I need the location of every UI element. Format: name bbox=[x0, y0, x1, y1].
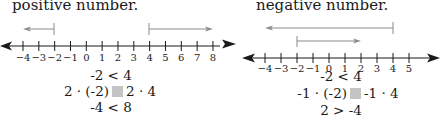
tick-label: −4 bbox=[16, 52, 31, 63]
tick-label: 8 bbox=[210, 52, 216, 63]
tick-label: −1 bbox=[63, 52, 78, 63]
right-step-1: -2 < 4 bbox=[306, 69, 376, 84]
tick-label: 5 bbox=[406, 63, 412, 74]
tick-label: 0 bbox=[83, 52, 89, 63]
comparison-placeholder-box bbox=[350, 88, 361, 99]
tick-label: −2 bbox=[47, 52, 62, 63]
right-step-2-lhs: -1 · (-2) bbox=[297, 85, 347, 101]
tick-label: 5 bbox=[162, 52, 168, 63]
tick-label: 7 bbox=[194, 52, 200, 63]
tick-label: −4 bbox=[258, 63, 273, 74]
tick-label: 3 bbox=[131, 52, 137, 63]
arrow-right-shift bbox=[149, 23, 213, 35]
left-step-2: 2 · (-2)2 · 4 bbox=[40, 84, 180, 99]
arrowhead-right-icon bbox=[222, 40, 236, 49]
tick-label: 6 bbox=[178, 52, 184, 63]
tick-label: 4 bbox=[146, 52, 152, 63]
comparison-placeholder-box bbox=[112, 86, 123, 97]
left-step-1: -2 < 4 bbox=[76, 68, 146, 83]
tick-label: −3 bbox=[274, 63, 289, 74]
right-step-3: 2 > -4 bbox=[306, 103, 376, 118]
arrow-short-right bbox=[297, 36, 361, 47]
tick-label: 4 bbox=[390, 63, 396, 74]
tick-label: 2 bbox=[115, 52, 121, 63]
right-step-2: -1 · (-2)-1 · 4 bbox=[278, 86, 418, 101]
arrow-long-left bbox=[265, 22, 393, 34]
right-number-line: −4−3−2−1012345 bbox=[242, 22, 440, 74]
left-step-2-rhs: 2 · 4 bbox=[126, 83, 156, 99]
left-step-2-lhs: 2 · (-2) bbox=[64, 83, 109, 99]
tick-label: 1 bbox=[99, 52, 105, 63]
arrow-left-shift bbox=[23, 23, 54, 35]
tick-label: −2 bbox=[290, 63, 305, 74]
left-step-3: -4 < 8 bbox=[76, 100, 146, 115]
left-number-line: −4−3−2−1012345678 bbox=[0, 23, 220, 63]
right-step-2-rhs: -1 · 4 bbox=[364, 85, 399, 101]
tick-label: −3 bbox=[31, 52, 46, 63]
